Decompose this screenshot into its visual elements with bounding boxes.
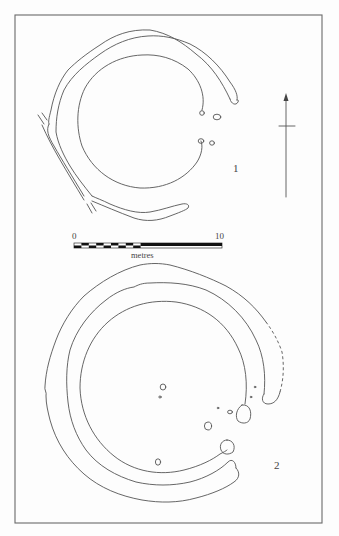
plan-1-inner-ring [78, 55, 203, 188]
plan-1-ditch-terminal-north [230, 99, 238, 104]
plan-2-ditch-inner-edge [67, 283, 265, 485]
plan-1-outer-ditch-sw-outer [48, 124, 84, 196]
plan-2-label: 2 [274, 460, 280, 471]
scale-end-label: 10 [215, 232, 224, 241]
plan-1-label: 1 [233, 163, 239, 174]
plan-2-posthole [159, 396, 161, 398]
scale-bar [74, 243, 222, 248]
scale-unit-label: metres [131, 251, 154, 260]
plan-drawing [0, 0, 339, 536]
figure-page: 1 2 0 10 metres [0, 0, 339, 536]
plan-1-outer-ditch-outer-edge [49, 30, 230, 124]
plan-1-boundary-tick-c [87, 204, 92, 213]
plan-2-posthole [250, 396, 252, 398]
plan-2-posthole [160, 384, 166, 390]
plan-2-posthole [204, 422, 211, 430]
plan-2-pit-entrance-north [236, 405, 250, 423]
plan-2-posthole [217, 407, 219, 409]
plan-2-posthole [254, 386, 256, 388]
scale-start-label: 0 [72, 232, 77, 241]
plan-1-outer-ditch-inner-edge [56, 36, 237, 196]
plan-1-boundary-line [42, 125, 84, 200]
plan-1-boundary-tick-a [38, 115, 44, 124]
plan-2 [45, 264, 284, 503]
plan-2-pit-entrance-south [220, 440, 234, 454]
plan-1-ditch-south-arm-outer [92, 196, 189, 220]
plan-2-posthole [228, 410, 233, 414]
plan-2-ditch-dashed-edge [266, 322, 283, 392]
plan-2-inner-ring [80, 301, 246, 472]
plan-1 [38, 30, 238, 221]
plan-2-ditch-outer-edge [45, 264, 266, 503]
plan-1-boundary-tick-b [42, 113, 47, 120]
north-arrow-icon [279, 93, 295, 197]
plan-2-ditch-terminal-east [262, 392, 280, 404]
plan-2-posthole [155, 459, 160, 465]
plan-1-posthole [200, 111, 205, 116]
plan-1-boundary-tick-d [91, 203, 96, 211]
plan-1-posthole [213, 114, 221, 120]
plan-1-posthole [210, 141, 215, 145]
